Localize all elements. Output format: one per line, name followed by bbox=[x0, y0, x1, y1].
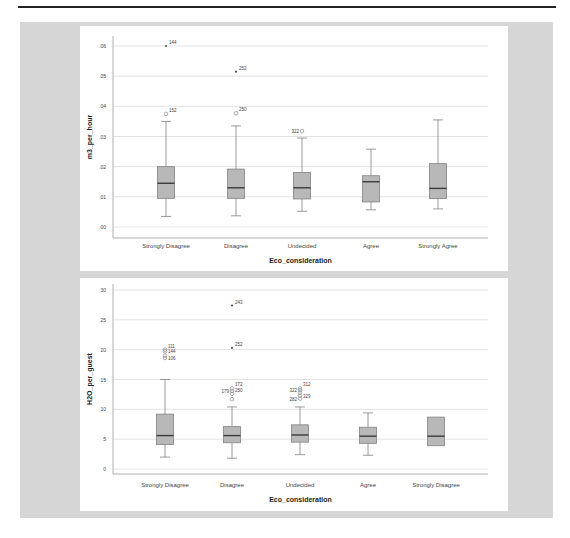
iqr-box bbox=[294, 172, 311, 199]
iqr-box bbox=[428, 417, 445, 446]
y-tick-label: 20 bbox=[100, 347, 106, 353]
boxplot-h2o-per-guest: 051015202530H2O_per_guestEco_considerati… bbox=[80, 278, 508, 511]
outlier-label: 252 bbox=[239, 66, 247, 71]
iqr-box bbox=[360, 427, 377, 443]
outlier-label: 152 bbox=[169, 108, 177, 113]
iqr-box bbox=[157, 414, 174, 444]
outlier-marker bbox=[230, 387, 234, 391]
box-strongly-disagree: 106144111 bbox=[157, 344, 177, 457]
outlier-marker bbox=[300, 129, 304, 133]
outlier-label: 144 bbox=[169, 40, 177, 45]
extreme-outlier-marker bbox=[235, 71, 237, 73]
outlier-marker bbox=[163, 354, 167, 358]
outlier-label: 172 bbox=[235, 382, 243, 387]
box-agree bbox=[363, 149, 380, 210]
category-label: Strongly Disagree bbox=[412, 482, 460, 488]
iqr-box bbox=[228, 169, 245, 198]
iqr-box bbox=[430, 164, 447, 199]
outlier-marker bbox=[234, 111, 238, 115]
outlier-label: 250 bbox=[235, 388, 243, 393]
category-label: Strongly Disagree bbox=[141, 482, 189, 488]
chart-panel-m3-per-hour: .00.01.02.03.04.05.06m3_per_hourEco_cons… bbox=[80, 26, 508, 271]
outlier-label: 329 bbox=[303, 394, 311, 399]
extreme-outlier-marker bbox=[231, 304, 233, 306]
y-tick-label: .03 bbox=[99, 134, 106, 140]
y-tick-label: 10 bbox=[100, 406, 106, 412]
category-label: Undecided bbox=[286, 482, 315, 488]
box-strongly-disagree bbox=[428, 417, 445, 446]
y-tick-label: 0 bbox=[103, 466, 106, 472]
outlier-label: 322 bbox=[289, 388, 297, 393]
box-strongly-agree bbox=[430, 120, 447, 209]
extreme-outlier-marker bbox=[165, 45, 167, 47]
box-disagree: 250179172252243 bbox=[221, 300, 243, 459]
iqr-box bbox=[158, 167, 175, 199]
box-agree bbox=[360, 413, 377, 455]
y-tick-label: 15 bbox=[100, 377, 106, 383]
iqr-box bbox=[363, 176, 380, 202]
boxplot-m3-per-hour: .00.01.02.03.04.05.06m3_per_hourEco_cons… bbox=[80, 26, 508, 271]
outlier-label: 106 bbox=[168, 356, 176, 361]
outlier-label: 322 bbox=[291, 129, 299, 134]
y-axis-title: m3_per_hour bbox=[86, 115, 94, 160]
y-tick-label: 5 bbox=[103, 436, 106, 442]
box-disagree: 250252 bbox=[228, 66, 248, 216]
y-tick-label: .02 bbox=[99, 164, 106, 170]
y-axis-title: H2O_per_guest bbox=[86, 352, 94, 404]
y-tick-label: .05 bbox=[99, 73, 106, 79]
outlier-label: 312 bbox=[303, 382, 311, 387]
outlier-label: 144 bbox=[168, 349, 176, 354]
box-undecided: 282329322312 bbox=[289, 382, 311, 454]
iqr-box bbox=[292, 425, 309, 442]
y-tick-label: .00 bbox=[99, 224, 106, 230]
outlier-marker bbox=[230, 397, 234, 401]
extreme-outlier-marker bbox=[231, 347, 233, 349]
y-tick-label: .01 bbox=[99, 194, 106, 200]
y-tick-label: 25 bbox=[100, 317, 106, 323]
category-label: Agree bbox=[360, 482, 377, 488]
chart-panel-h2o-per-guest: 051015202530H2O_per_guestEco_considerati… bbox=[80, 278, 508, 511]
box-undecided: 322 bbox=[291, 129, 310, 211]
y-tick-label: 30 bbox=[100, 287, 106, 293]
category-label: Undecided bbox=[288, 243, 317, 249]
x-axis-title: Eco_consideration bbox=[269, 496, 332, 503]
top-rule bbox=[18, 6, 556, 8]
category-label: Disagree bbox=[224, 243, 249, 249]
x-axis-title: Eco_consideration bbox=[269, 257, 332, 264]
category-label: Disagree bbox=[220, 482, 245, 488]
y-tick-label: .04 bbox=[99, 103, 106, 109]
outlier-label: 111 bbox=[168, 344, 175, 349]
outlier-label: 252 bbox=[235, 342, 243, 347]
outlier-label: 250 bbox=[239, 107, 247, 112]
outlier-label: 243 bbox=[235, 300, 243, 305]
outlier-marker bbox=[164, 112, 168, 116]
y-tick-label: .06 bbox=[99, 43, 106, 49]
outlier-label: 282 bbox=[289, 397, 297, 402]
outlier-label: 179 bbox=[221, 389, 229, 394]
box-strongly-disagree: 152144 bbox=[158, 40, 178, 216]
category-label: Agree bbox=[363, 243, 380, 249]
category-label: Strongly Disagree bbox=[142, 243, 190, 249]
iqr-box bbox=[224, 427, 241, 443]
category-label: Strongly Agree bbox=[418, 243, 458, 249]
